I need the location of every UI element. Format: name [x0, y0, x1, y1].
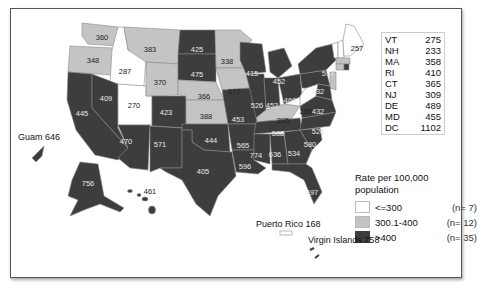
guam-label: Guam 646 — [18, 132, 60, 142]
small-state-row: MA358 — [385, 56, 441, 67]
small-state-row: CT365 — [385, 78, 441, 89]
small-state-row: DE489 — [385, 100, 441, 111]
label-sc: 580 — [304, 140, 317, 149]
state-fl — [272, 164, 322, 204]
label-tx: 405 — [197, 167, 210, 176]
state-hi-1 — [128, 190, 133, 193]
state-ri — [344, 64, 349, 70]
label-mt: 383 — [144, 45, 157, 54]
label-fl: 497 — [306, 188, 319, 197]
label-ut: 270 — [128, 101, 141, 110]
state-hi-2 — [137, 194, 141, 197]
legend-swatch-low — [355, 201, 370, 213]
virgin-islands-label: Virgin Islands 758 — [308, 235, 379, 245]
label-co: 423 — [160, 108, 173, 117]
state-hi-4 — [149, 206, 156, 214]
small-state-row: NH233 — [385, 45, 441, 56]
label-ms: 774 — [250, 151, 263, 160]
label-nv: 409 — [100, 94, 113, 103]
label-ak: 756 — [82, 179, 95, 188]
label-nm: 571 — [154, 140, 167, 149]
state-mi — [268, 48, 292, 78]
territory-puerto-rico — [280, 231, 292, 235]
label-az: 470 — [120, 137, 133, 146]
label-pa: 432 — [312, 87, 325, 96]
label-ok: 444 — [205, 136, 218, 145]
label-ca: 445 — [76, 109, 89, 118]
legend-title: Rate per 100,000 population — [355, 172, 477, 196]
label-wa: 360 — [96, 33, 109, 42]
label-il: 526 — [251, 101, 264, 110]
label-oh: 460 — [284, 96, 297, 105]
puerto-rico-label: Puerto Rico 168 — [256, 219, 321, 229]
legend-swatch-mid — [355, 216, 370, 228]
label-ny: 517 — [322, 69, 335, 78]
label-ar: 565 — [237, 141, 250, 150]
state-hi-3 — [142, 197, 148, 201]
label-mi: 452 — [273, 77, 286, 86]
label-wv: 258 — [300, 107, 313, 116]
territory-guam — [32, 146, 44, 162]
label-al: 636 — [269, 150, 282, 159]
small-state-row: VT275 — [385, 34, 441, 45]
label-or: 348 — [87, 56, 100, 65]
label-mn: 338 — [221, 57, 234, 66]
state-nm — [150, 126, 182, 172]
label-ia: 372 — [228, 87, 241, 96]
label-va: 432 — [312, 107, 325, 116]
legend-item-low: <=300 (n= 7) — [355, 200, 477, 214]
state-ak — [68, 162, 124, 216]
label-ky: 395 — [277, 116, 290, 125]
label-nd: 425 — [191, 45, 204, 54]
label-wi: 415 — [246, 69, 259, 78]
label-ks: 388 — [200, 112, 213, 121]
label-ga: 534 — [288, 149, 301, 158]
state-ct — [336, 64, 344, 70]
label-wy: 370 — [154, 78, 167, 87]
small-states-table: VT275 NH233 MA358 RI410 CT365 NJ309 DE48… — [381, 32, 445, 135]
small-state-row: DC1102 — [385, 122, 441, 133]
territory-virgin-islands-2 — [315, 255, 319, 258]
label-ne: 366 — [198, 92, 211, 101]
label-me: 257 — [351, 44, 364, 53]
label-nc: 524 — [312, 127, 325, 136]
small-state-row: NJ309 — [385, 89, 441, 100]
small-state-row: MD455 — [385, 111, 441, 122]
label-tn: 508 — [272, 129, 285, 138]
territory-virgin-islands-1 — [310, 248, 314, 250]
label-la: 596 — [239, 162, 252, 171]
small-state-row: RI410 — [385, 67, 441, 78]
state-ma — [336, 58, 350, 64]
label-mo: 453 — [232, 115, 245, 124]
label-sd: 475 — [191, 70, 204, 79]
label-in: 453 — [266, 101, 279, 110]
legend-item-mid: 300.1-400 (n= 12) — [355, 215, 477, 229]
label-id: 287 — [119, 67, 132, 76]
label-hi: 461 — [144, 187, 157, 196]
